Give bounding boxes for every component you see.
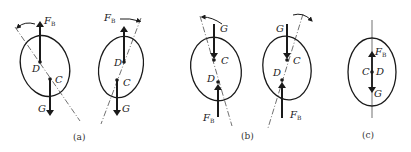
point-d-label: D <box>272 67 281 78</box>
point-c-label: C <box>55 74 63 85</box>
gravity-label: G <box>276 23 284 34</box>
body-outline <box>185 33 247 106</box>
point-c-label: C <box>293 55 301 66</box>
svg-text:FB: FB <box>103 12 116 24</box>
svg-text:FB: FB <box>43 15 56 27</box>
point-c <box>285 58 289 62</box>
gravity-label: G <box>122 103 130 114</box>
rotation-arrow-icon <box>120 19 139 21</box>
stability-diagram: FB D C G FB D C G (a) G C D FB <box>0 0 411 152</box>
svg-text:FB: FB <box>202 112 215 124</box>
axis-line <box>101 18 141 124</box>
point-c-label: C <box>362 66 370 77</box>
svg-text:FB: FB <box>289 109 302 121</box>
figure-b-right: G C D FB <box>259 14 315 128</box>
figure-a-right: FB D C G <box>93 12 149 124</box>
svg-text:FB: FB <box>374 46 387 58</box>
point-d-label: D <box>375 66 384 77</box>
figure-b-left: G C D FB <box>185 16 247 126</box>
point-c <box>212 58 216 62</box>
point-c <box>48 77 52 81</box>
point-d-label: D <box>31 63 40 74</box>
point-d <box>122 60 126 64</box>
point-d <box>216 80 220 84</box>
point-d-label: D <box>206 73 215 84</box>
point-cd <box>370 70 374 74</box>
rotation-arrow-icon <box>18 23 35 27</box>
gravity-label: G <box>374 88 382 99</box>
point-d <box>280 78 284 82</box>
gravity-label: G <box>38 103 46 114</box>
point-c <box>115 78 119 82</box>
figure-a-left: FB D C G <box>13 15 80 121</box>
point-c-label: C <box>123 77 131 88</box>
caption-a: (a) <box>73 132 85 142</box>
point-d-label: D <box>113 57 122 68</box>
gravity-label: G <box>220 23 228 34</box>
caption-c: (c) <box>362 130 374 140</box>
body-outline <box>13 29 78 103</box>
point-c-label: C <box>221 55 229 66</box>
figure-c: FB C D G <box>348 20 396 118</box>
caption-b: (b) <box>241 131 254 141</box>
